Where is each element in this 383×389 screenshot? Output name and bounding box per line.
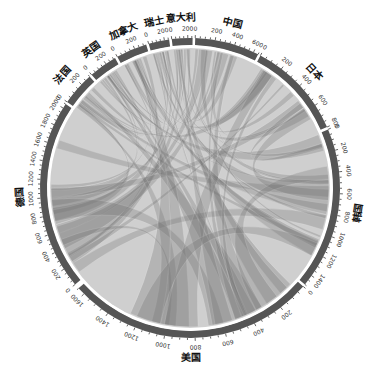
tick-label: 200 bbox=[182, 25, 194, 32]
tick-label: 1400 bbox=[28, 150, 38, 166]
tick-label: 1200 bbox=[123, 331, 140, 343]
tick-label: 1400 bbox=[94, 314, 111, 328]
tick-label: 200 bbox=[49, 268, 61, 282]
chord-ribbons bbox=[50, 48, 330, 328]
tick-label: 200 bbox=[156, 26, 169, 35]
tick-label: 200 bbox=[280, 309, 293, 322]
tick-label: 400 bbox=[231, 30, 244, 40]
tick-label: 0 bbox=[194, 25, 198, 32]
tick-label: 1200 bbox=[325, 253, 338, 270]
tick-label: 1800 bbox=[39, 112, 52, 129]
tick-label: 0 bbox=[143, 30, 149, 38]
tick-label: 600 bbox=[346, 188, 353, 200]
segment-label: 法国 bbox=[51, 63, 73, 86]
tick-label: 600 bbox=[33, 232, 43, 245]
chord-diagram: 0200400600800100012001400160018002000德国0… bbox=[0, 0, 383, 389]
tick-label: 1600 bbox=[32, 131, 43, 148]
tick-label: 0 bbox=[109, 44, 116, 52]
tick-label: 800 bbox=[189, 344, 201, 351]
tick-label: 200 bbox=[211, 26, 224, 35]
tick-label: 400 bbox=[252, 327, 266, 338]
tick-label: 0 bbox=[81, 63, 89, 71]
tick-label: 1000 bbox=[155, 341, 171, 351]
tick-label: 1200 bbox=[26, 171, 34, 187]
tick-label: 600 bbox=[221, 339, 234, 349]
segment-label: 美国 bbox=[181, 351, 201, 363]
tick-label: 1000 bbox=[26, 191, 34, 207]
tick-label: 400 bbox=[40, 250, 51, 264]
tick-label: 1400 bbox=[312, 273, 327, 290]
segment-label: 德国 bbox=[13, 187, 26, 209]
tick-label: 0 bbox=[64, 287, 72, 295]
tick-label: 200 bbox=[281, 55, 294, 68]
tick-label: 200 bbox=[340, 141, 350, 154]
tick-label: 0 bbox=[168, 26, 173, 33]
tick-label: 0 bbox=[307, 289, 315, 297]
segment-label: 意大利 bbox=[166, 10, 197, 24]
tick-label: 600 bbox=[317, 93, 329, 107]
tick-label: 400 bbox=[345, 165, 353, 177]
tick-label: 1000 bbox=[335, 232, 347, 249]
tick-label: 800 bbox=[29, 212, 38, 225]
segment-label: 中国 bbox=[222, 14, 244, 31]
segment-label: 韩国 bbox=[350, 202, 365, 224]
segment-arc bbox=[172, 38, 193, 46]
